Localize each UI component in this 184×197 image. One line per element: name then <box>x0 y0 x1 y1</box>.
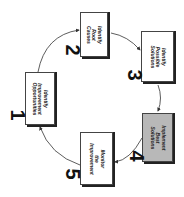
step-2-number: 2 <box>63 44 83 55</box>
step-1-label: Identify Improvement Opportunities <box>32 82 49 115</box>
step-5-label: Monitor the Improvement <box>88 143 105 174</box>
step-3-line-3: Solutions <box>149 45 155 68</box>
improvement-cycle-diagram: Identify Improvement Opportunities 1 Ide… <box>0 0 184 197</box>
step-2-box: Identify Root Causes <box>80 12 108 57</box>
step-5-box: Monitor the Improvement <box>80 132 113 185</box>
arrow-2-to-3 <box>111 33 140 50</box>
arrow-5-to-1 <box>40 127 80 165</box>
step-3-label: Identify Possible Solutions <box>149 45 166 68</box>
step-5-number: 5 <box>63 168 83 179</box>
step-1-number: 1 <box>8 109 28 120</box>
arrow-3-to-4 <box>158 85 161 111</box>
step-2-label: Identify Root Causes <box>86 26 103 44</box>
step-2-line-1: Identify <box>97 26 103 44</box>
step-4-label: Implement Best Solutions <box>149 125 166 150</box>
step-3-number: 3 <box>125 69 145 80</box>
step-1-line-1: Identify <box>43 82 49 115</box>
step-4-number: 4 <box>127 150 147 161</box>
step-1-line-3: Opportunities <box>32 82 38 115</box>
step-2-line-3: Causes <box>86 26 92 44</box>
step-3-box: Identify Possible Solutions <box>141 31 174 82</box>
step-4-line-3: Solutions <box>149 125 155 150</box>
step-1-box: Identify Improvement Opportunities <box>25 72 55 125</box>
step-5-line-3: Improvement <box>88 143 94 174</box>
